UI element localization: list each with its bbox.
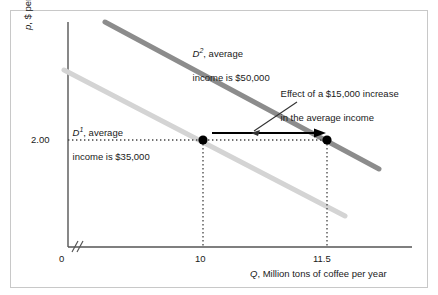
- x-axis-title: Q, Million tons of coffee per year: [250, 268, 387, 280]
- equilibrium-dot-d2: [322, 135, 331, 144]
- annotation-leader-arrowhead: [251, 130, 260, 136]
- shift-annotation-text: Effect of a $15,000 increase in the aver…: [270, 76, 399, 136]
- chart-figure: p, $ per lb 2.00 0 10 11.5 Q, Million to…: [0, 0, 438, 295]
- x-tick-label-10: 10: [195, 253, 206, 264]
- series-label-d2-line2: income is $50,000: [193, 72, 270, 83]
- series-label-d1-suffix: , average: [83, 127, 123, 138]
- series-label-d2-suffix: , average: [203, 48, 243, 59]
- origin-label: 0: [59, 253, 64, 264]
- x-tick-label-115: 11.5: [313, 253, 331, 264]
- y-axis-title-rest: , $ per lb: [22, 0, 33, 25]
- shift-annotation-line1: Effect of a $15,000 increase: [281, 88, 399, 99]
- series-label-d1: D1, average income is $35,000: [62, 112, 150, 175]
- y-axis-title: p, $ per lb: [22, 16, 33, 30]
- series-label-d1-line2: income is $35,000: [73, 151, 150, 162]
- shift-annotation-line2: in the average income: [281, 112, 374, 123]
- x-axis-title-rest: , Million tons of coffee per year: [257, 268, 386, 279]
- y-tick-label-2: 2.00: [31, 134, 50, 145]
- y-axis-title-symbol: p: [22, 25, 33, 30]
- series-label-d2: D2, average income is $50,000: [182, 33, 270, 96]
- equilibrium-dot-d1: [198, 135, 207, 144]
